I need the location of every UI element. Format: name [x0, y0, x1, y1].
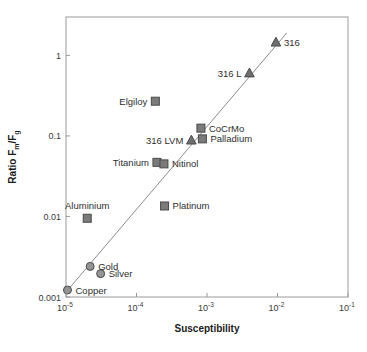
data-point-marker — [160, 160, 168, 168]
data-point-marker — [83, 214, 91, 222]
data-point-marker — [151, 97, 159, 105]
y-tick-label: 0.1 — [48, 131, 61, 141]
x-axis-title: Susceptibility — [174, 323, 239, 334]
chart-figure: 10-510-410-310-210-1 10.10.010.001 31631… — [0, 0, 367, 352]
data-point-marker — [198, 135, 206, 143]
y-tick-label: 1 — [56, 51, 61, 61]
data-point-marker — [86, 262, 94, 270]
y-axis-ticks: 10.10.010.001 — [38, 51, 70, 303]
data-point-label: Aluminium — [65, 200, 109, 211]
data-point-marker — [197, 124, 205, 132]
y-tick-label: 0.01 — [43, 212, 61, 222]
data-point-label: Copper — [75, 285, 106, 296]
data-point-marker — [63, 286, 71, 294]
data-point-label: Silver — [109, 268, 133, 279]
x-tick-label: 10-5 — [57, 301, 73, 313]
y-tick-label: 0.001 — [38, 293, 61, 303]
data-point-label: 316 L — [218, 68, 242, 79]
point-labels: 316316 LElgiloyCoCrMoPalladium316 LVMTit… — [65, 37, 300, 296]
plot-border — [66, 17, 348, 297]
y-axis-title: Ratio Fm/Fg — [7, 130, 21, 183]
data-point-label: Elgiloy — [119, 96, 147, 107]
plot-frame — [66, 17, 348, 297]
data-point-label: CoCrMo — [209, 123, 244, 134]
x-tick-label: 10-2 — [269, 301, 285, 313]
data-point-label: Palladium — [210, 133, 252, 144]
data-point-label: Nitinol — [172, 158, 198, 169]
data-point-label: Titanium — [113, 157, 149, 168]
data-point-marker — [187, 135, 197, 144]
data-point-label: 316 LVM — [146, 135, 183, 146]
x-axis-ticks: 10-510-410-310-210-1 — [57, 293, 355, 313]
data-point-label: 316 — [284, 37, 300, 48]
data-point-marker — [161, 202, 169, 210]
x-tick-label: 10-3 — [198, 301, 214, 313]
x-tick-label: 10-4 — [128, 301, 144, 313]
scatter-plot: 10-510-410-310-210-1 10.10.010.001 31631… — [0, 0, 367, 352]
data-point-label: Platinum — [173, 200, 210, 211]
x-tick-label: 10-1 — [339, 301, 355, 313]
